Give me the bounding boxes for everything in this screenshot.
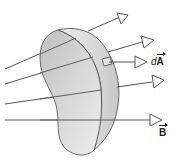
magnetic-flux-diagram: [0, 0, 179, 163]
vector-B: B: [159, 128, 166, 138]
arrowhead-1: [117, 13, 128, 24]
arrowhead-2: [141, 36, 154, 48]
field-arrowheads: [117, 13, 164, 126]
field-label: B: [159, 128, 166, 138]
vector-A: A: [157, 57, 164, 67]
area-element-label: dA: [151, 57, 164, 67]
arrowhead-3: [152, 75, 164, 88]
area-normal-arrowhead: [135, 56, 147, 68]
